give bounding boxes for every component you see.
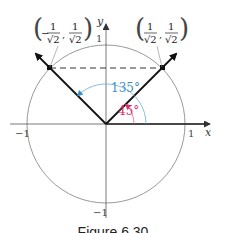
- svg-text:1: 1: [168, 21, 174, 32]
- leader-left: [50, 46, 58, 67]
- figure-caption: Figure 6.30: [0, 224, 226, 233]
- x-axis-label: x: [205, 126, 212, 139]
- svg-text:√2: √2: [69, 34, 82, 45]
- tick-y-neg: −1: [93, 207, 108, 218]
- y-axis-label: y: [96, 15, 104, 28]
- tick-x-pos: 1: [188, 128, 194, 139]
- svg-text:√2: √2: [47, 34, 60, 45]
- angle-label-45: 45°: [118, 104, 139, 118]
- point-right: [160, 65, 165, 70]
- point-left: [47, 65, 52, 70]
- svg-text:,: ,: [62, 29, 65, 40]
- svg-text:1: 1: [72, 21, 78, 32]
- coord-label-right: ( 1 √2 , 1 √2 ): [135, 13, 189, 45]
- svg-text:): ): [83, 13, 93, 43]
- vector-135: [36, 54, 106, 124]
- tick-y-pos: 1: [96, 33, 102, 44]
- svg-text:1: 1: [50, 21, 56, 32]
- unit-circle-diagram: 135° 45° x y 1 −1 1 −1 ( − 1 √2 , 1 √2 )…: [0, 0, 226, 233]
- svg-text:1: 1: [147, 21, 153, 32]
- coord-label-left: ( − 1 √2 , 1 √2 ): [33, 13, 93, 45]
- svg-text:√2: √2: [144, 34, 157, 45]
- svg-text:√2: √2: [165, 34, 178, 45]
- tick-x-neg: −1: [15, 128, 30, 139]
- angle-label-135: 135°: [111, 81, 140, 95]
- svg-text:): ): [179, 13, 189, 43]
- svg-text:,: ,: [159, 29, 162, 40]
